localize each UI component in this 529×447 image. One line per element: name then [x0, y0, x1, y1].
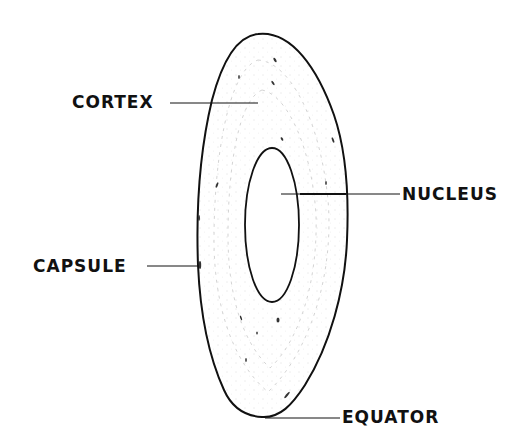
lens-nucleus: [245, 148, 299, 302]
lens-diagram: [0, 0, 529, 447]
label-cortex: CORTEX: [72, 94, 154, 111]
label-capsule: CAPSULE: [33, 258, 127, 275]
label-nucleus: NUCLEUS: [402, 186, 498, 203]
label-equator: EQUATOR: [342, 409, 439, 426]
